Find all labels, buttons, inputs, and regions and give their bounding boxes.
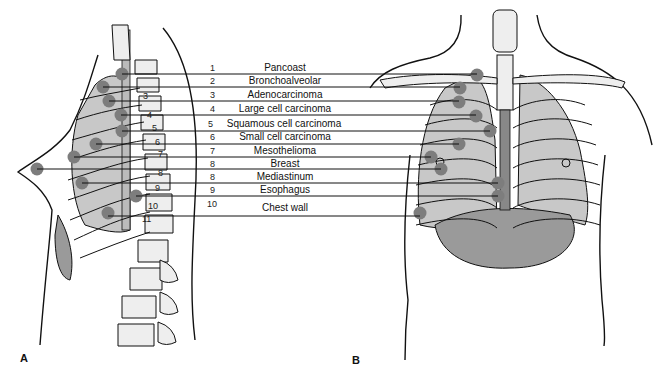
vertebra-label: 9: [155, 183, 160, 193]
legend-label: Esophagus: [260, 184, 310, 195]
lesion-dot: [471, 69, 484, 82]
diaphragm-lateral: [55, 215, 72, 280]
legend-number: 4: [210, 104, 215, 114]
lesion-dot: [454, 82, 467, 95]
lesion-dot: [470, 110, 483, 123]
legend-number: 1: [210, 63, 215, 73]
larynx: [493, 10, 517, 52]
right-torso-outline: [600, 155, 605, 346]
liver-diaphragm: [435, 208, 574, 268]
legend-label: Chest wall: [262, 202, 308, 213]
legend-label: Large cell carcinoma: [239, 103, 332, 114]
lesion-dot: [414, 207, 427, 220]
legend-label: Pancoast: [264, 62, 306, 73]
vertebra-label: 10: [148, 201, 158, 211]
legend-number: 5: [208, 119, 213, 129]
panel-label-a: A: [20, 352, 28, 364]
panel-b-frontal-view: [370, 10, 652, 360]
left-torso-outline: [405, 155, 410, 360]
vertebra-label: 6: [155, 137, 160, 147]
legend-number: 10: [207, 199, 217, 209]
legend-label: Squamous cell carcinoma: [227, 118, 342, 129]
legend-label: Breast: [271, 158, 300, 169]
panel-label-b: B: [352, 354, 360, 366]
legend-label: Mediastinum: [257, 171, 314, 182]
legend-number: 3: [210, 90, 215, 100]
legend-number: 8: [210, 172, 215, 182]
trachea: [497, 55, 513, 110]
legend-number: 6: [210, 132, 215, 142]
legend-number: 8: [210, 159, 215, 169]
legend-label: Adenocarcinoma: [247, 89, 322, 100]
lesion-dot: [453, 96, 466, 109]
legend-number: 2: [210, 76, 215, 86]
vertebra-label: 3: [143, 91, 148, 101]
legend-label: Mesothelioma: [254, 145, 317, 156]
panel-a-lateral-view: 3 4 5 6 7 8 9 10 11: [18, 25, 196, 346]
lesion-dot: [102, 207, 115, 220]
legend-number: 9: [210, 185, 215, 195]
legend-number: 7: [210, 146, 215, 156]
legend-label: Small cell carcinoma: [239, 131, 331, 142]
legend-label: Bronchoalveolar: [249, 75, 322, 86]
legend-item: 5 Squamous cell carcinoma: [208, 118, 342, 129]
lung-tumor-location-diagram: 3 4 5 6 7 8 9 10 11: [0, 0, 663, 376]
